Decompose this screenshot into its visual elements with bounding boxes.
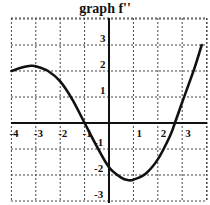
y-tick-label: 2 bbox=[100, 58, 106, 70]
x-tick-label: -3 bbox=[34, 127, 44, 139]
y-tick-label: 3 bbox=[100, 32, 106, 44]
y-tick-label: -2 bbox=[94, 162, 104, 174]
x-tick-label: -2 bbox=[58, 127, 68, 139]
chart-plot: -4-3-2-1123321-1-2-3 bbox=[0, 0, 210, 205]
x-tick-label: 2 bbox=[161, 127, 167, 139]
y-tick-label: -3 bbox=[94, 188, 104, 200]
x-tick-label: 3 bbox=[185, 127, 191, 139]
y-tick-label: 1 bbox=[100, 84, 106, 96]
x-tick-label: 1 bbox=[136, 127, 142, 139]
x-tick-label: -4 bbox=[9, 127, 19, 139]
f-double-prime-curve bbox=[11, 45, 201, 180]
